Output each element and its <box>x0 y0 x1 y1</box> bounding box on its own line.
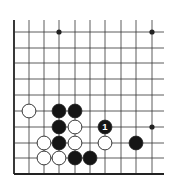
black-stone-icon <box>52 104 66 118</box>
black-stone-icon <box>129 136 143 150</box>
white-stone <box>52 151 66 165</box>
white-stone <box>22 104 36 118</box>
black-stone-icon <box>52 120 66 134</box>
black-stone <box>68 104 82 118</box>
black-stone-icon <box>52 136 66 150</box>
white-stone-icon <box>22 104 36 118</box>
white-stone-icon <box>68 136 82 150</box>
go-board: 1 <box>0 0 176 184</box>
white-stone <box>37 136 51 150</box>
black-stone <box>52 120 66 134</box>
white-stone <box>98 136 112 150</box>
black-stone-icon <box>83 151 97 165</box>
black-stone <box>52 104 66 118</box>
black-stone-icon <box>68 151 82 165</box>
star-point-icon <box>149 29 154 34</box>
white-stone <box>37 151 51 165</box>
stones-layer: 1 <box>22 104 143 165</box>
white-stone-icon <box>98 136 112 150</box>
white-stone <box>68 120 82 134</box>
star-point-icon <box>149 124 154 129</box>
black-stone-numbered: 1 <box>98 120 112 134</box>
white-stone-icon <box>68 120 82 134</box>
black-stone-icon <box>68 104 82 118</box>
white-stone <box>68 136 82 150</box>
black-stone <box>68 151 82 165</box>
white-stone-icon <box>37 151 51 165</box>
move-number-label: 1 <box>102 121 108 132</box>
star-point-icon <box>56 29 61 34</box>
black-stone <box>129 136 143 150</box>
white-stone-icon <box>52 151 66 165</box>
white-stone-icon <box>37 136 51 150</box>
black-stone <box>83 151 97 165</box>
black-stone <box>52 136 66 150</box>
